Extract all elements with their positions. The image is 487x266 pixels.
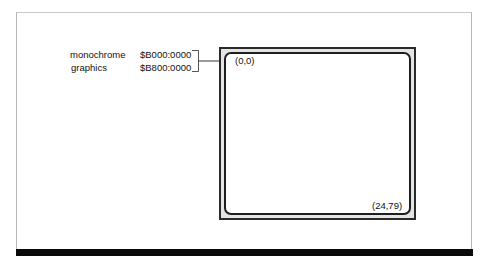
screen-outer-box [219,47,416,220]
screen-display-area [224,52,411,215]
bracket [192,51,199,72]
coord-top-left: (0,0) [235,55,255,67]
coord-bottom-right: (24,79) [372,200,402,212]
